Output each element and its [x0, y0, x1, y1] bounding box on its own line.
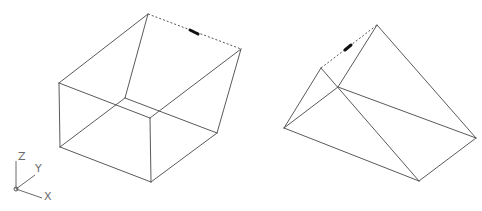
right-solid-edge: [338, 25, 377, 87]
left-solid-wireframe[interactable]: [59, 14, 241, 182]
right-solid-edge: [419, 138, 476, 181]
left-solid-edge: [60, 98, 125, 147]
left-solid-grip-marker[interactable]: [190, 30, 198, 34]
right-solid-edge: [338, 87, 476, 138]
y-axis-label: Y: [34, 162, 42, 175]
x-axis-line: [16, 189, 42, 198]
left-solid-edge: [125, 14, 148, 98]
right-solid-edge: [321, 68, 419, 181]
left-solid-edge: [59, 83, 150, 118]
left-solid-edge: [150, 49, 241, 118]
right-solid-edge: [284, 87, 338, 128]
left-solid-edge: [59, 83, 60, 147]
ucs-axis-icon: Z Y X: [14, 150, 52, 203]
left-solid-edge: [217, 49, 241, 133]
left-solid-edge: [151, 133, 217, 182]
right-solid-grip-marker[interactable]: [345, 45, 351, 50]
left-solid-edge: [125, 98, 217, 133]
right-solid-edge: [377, 25, 476, 138]
x-axis-label: X: [44, 190, 52, 203]
z-axis-label: Z: [18, 150, 26, 163]
right-solid-wireframe[interactable]: [284, 25, 476, 181]
drawing-viewport[interactable]: Z Y X: [0, 0, 482, 211]
y-axis-line: [16, 175, 35, 189]
right-solid-edge: [284, 68, 321, 128]
left-solid-edge: [60, 147, 151, 182]
right-solid-edge: [284, 128, 419, 181]
left-solid-edge: [59, 14, 148, 83]
left-solid-edge: [150, 118, 151, 182]
